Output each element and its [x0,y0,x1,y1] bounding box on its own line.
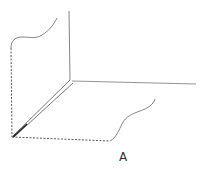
dashed-bottom-edge [12,137,110,141]
diagonal-line-tip [13,124,27,137]
diagonal-line-outer [13,80,70,136]
right-floor-curve [110,99,155,141]
horizontal-plane-edge [72,81,196,84]
diagonal-line-inner [14,83,73,137]
diagram-canvas [0,0,209,169]
dashed-left-edge [11,48,12,137]
top-left-curve [11,18,57,48]
vertical-plane-edge [69,11,70,80]
figure-label: A [116,150,130,164]
